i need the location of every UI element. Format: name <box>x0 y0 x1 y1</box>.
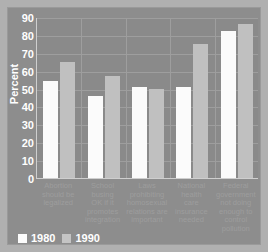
x-axis-label-cat3: Lawsprohibitinghomosexualrelations areim… <box>125 182 169 225</box>
bar-1980-cat1 <box>43 81 58 178</box>
bar-1990-cat2 <box>105 76 120 178</box>
x-axis-label-cat4: Nationalhealthcareinsuranceneeded <box>169 182 213 225</box>
x-axis-label-cat2: SchoolbusingOK if itpromotesintegration <box>80 182 124 225</box>
plot-area <box>36 18 258 179</box>
gridline-horizontal <box>37 18 258 19</box>
gridline-vertical <box>81 18 82 178</box>
y-tick-label: 30 <box>4 120 34 131</box>
legend-swatch-icon <box>18 234 27 243</box>
y-tick-label: 90 <box>4 13 34 24</box>
y-tick-label: 10 <box>4 156 34 167</box>
x-axis-label-cat1: Abortionshould belegalized <box>36 182 80 208</box>
x-axis-labels: Abortionshould belegalizedSchoolbusingOK… <box>36 182 258 234</box>
legend-label: 1980 <box>31 233 55 244</box>
chart-screenshot: 9080706050403020100 Percent Abortionshou… <box>0 0 268 252</box>
bar-1990-cat3 <box>149 89 164 178</box>
legend-item-1990: 1990 <box>62 233 99 244</box>
bar-1980-cat2 <box>88 96 103 178</box>
legend-swatch-icon <box>62 234 71 243</box>
bar-1990-cat5 <box>238 24 253 178</box>
legend-item-1980: 1980 <box>18 233 55 244</box>
y-tick-label: 80 <box>4 31 34 42</box>
y-tick-label: 0 <box>4 174 34 185</box>
bar-1990-cat4 <box>193 44 208 178</box>
bar-1990-cat1 <box>60 62 75 178</box>
y-tick-label: 20 <box>4 138 34 149</box>
y-axis-title: Percent <box>8 54 20 114</box>
legend: 19801990 <box>18 233 100 244</box>
legend-label: 1990 <box>75 233 99 244</box>
gridline-vertical <box>126 18 127 178</box>
gridline-vertical <box>170 18 171 178</box>
x-axis-label-cat5: Federalgovernmentnot doingenough tocontr… <box>214 182 258 234</box>
bar-1980-cat4 <box>176 87 191 178</box>
gridline-vertical <box>215 18 216 178</box>
bar-1980-cat3 <box>132 87 147 178</box>
bar-1980-cat5 <box>221 31 236 178</box>
